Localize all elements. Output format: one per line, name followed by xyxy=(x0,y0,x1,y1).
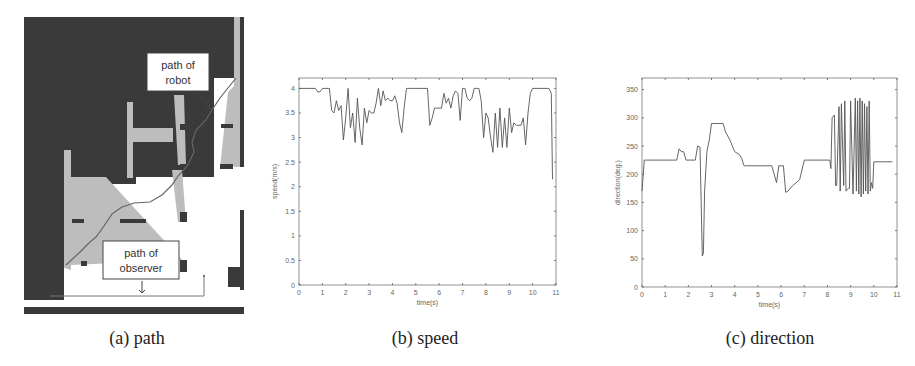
x-tick-label: 10 xyxy=(529,289,537,296)
x-tick-label: 8 xyxy=(826,291,830,298)
robot-label-line2: robot xyxy=(165,74,190,86)
panel-a-path-map: path of robot path of observer xyxy=(0,0,260,320)
series-line-speed xyxy=(299,88,553,179)
panel-b-speed-chart: 0123456789101100.511.522.533.54time(s)sp… xyxy=(260,40,570,320)
y-tick-label: 150 xyxy=(626,199,638,206)
observer-label-line1: path of xyxy=(124,247,159,259)
speed-chart: 0123456789101100.511.522.533.54time(s)sp… xyxy=(260,40,570,320)
plot-frame xyxy=(299,78,556,285)
x-tick-label: 9 xyxy=(849,291,853,298)
y-tick-label: 4 xyxy=(291,85,295,92)
x-tick-label: 3 xyxy=(710,291,714,298)
series-line-direction xyxy=(642,98,892,256)
y-tick-label: 0.5 xyxy=(285,257,295,264)
caption-c: (c) direction xyxy=(726,328,814,349)
x-tick-label: 0 xyxy=(640,291,644,298)
map-bottom-wall xyxy=(24,307,244,314)
x-tick-label: 6 xyxy=(437,289,441,296)
x-tick-label: 8 xyxy=(484,289,488,296)
panel-c-direction-chart: 01234567891011050100150200250300350time(… xyxy=(580,40,915,320)
map-figure: path of robot path of observer xyxy=(0,0,260,320)
x-tick-label: 0 xyxy=(297,289,301,296)
x-tick-label: 11 xyxy=(552,289,559,296)
y-axis-label: direction(deg.) xyxy=(614,160,622,205)
caption-b: (b) speed xyxy=(392,328,458,349)
y-tick-label: 3.5 xyxy=(285,109,295,116)
y-tick-label: 50 xyxy=(630,255,638,262)
x-tick-label: 3 xyxy=(367,289,371,296)
y-tick-label: 200 xyxy=(626,171,638,178)
y-tick-label: 2 xyxy=(291,183,295,190)
y-tick-label: 250 xyxy=(626,143,638,150)
x-axis-label: time(s) xyxy=(417,299,438,307)
y-tick-label: 0 xyxy=(634,284,638,291)
y-tick-label: 350 xyxy=(626,86,638,93)
y-tick-label: 2.5 xyxy=(285,159,295,166)
x-axis-label: time(s) xyxy=(759,301,780,309)
y-axis-label: speed(m/s) xyxy=(271,164,279,199)
x-tick-label: 4 xyxy=(391,289,395,296)
x-tick-label: 11 xyxy=(893,291,900,298)
robot-label-line1: path of xyxy=(161,59,196,71)
x-tick-label: 1 xyxy=(320,289,324,296)
direction-chart: 01234567891011050100150200250300350time(… xyxy=(580,40,915,320)
x-tick-label: 1 xyxy=(663,291,667,298)
x-tick-label: 6 xyxy=(779,291,783,298)
y-tick-label: 0 xyxy=(291,282,295,289)
y-tick-label: 3 xyxy=(291,134,295,141)
y-tick-label: 300 xyxy=(626,114,638,121)
caption-a: (a) path xyxy=(109,328,164,349)
x-tick-label: 5 xyxy=(414,289,418,296)
x-tick-label: 10 xyxy=(870,291,878,298)
y-tick-label: 1.5 xyxy=(285,208,295,215)
x-tick-label: 7 xyxy=(802,291,806,298)
x-tick-label: 7 xyxy=(461,289,465,296)
x-tick-label: 5 xyxy=(756,291,760,298)
x-tick-label: 9 xyxy=(507,289,511,296)
x-tick-label: 4 xyxy=(733,291,737,298)
observer-label-line2: observer xyxy=(120,262,163,274)
y-tick-label: 1 xyxy=(291,232,295,239)
observer-path-line xyxy=(50,277,204,296)
x-tick-label: 2 xyxy=(344,289,348,296)
y-tick-label: 100 xyxy=(626,227,638,234)
x-tick-label: 2 xyxy=(686,291,690,298)
